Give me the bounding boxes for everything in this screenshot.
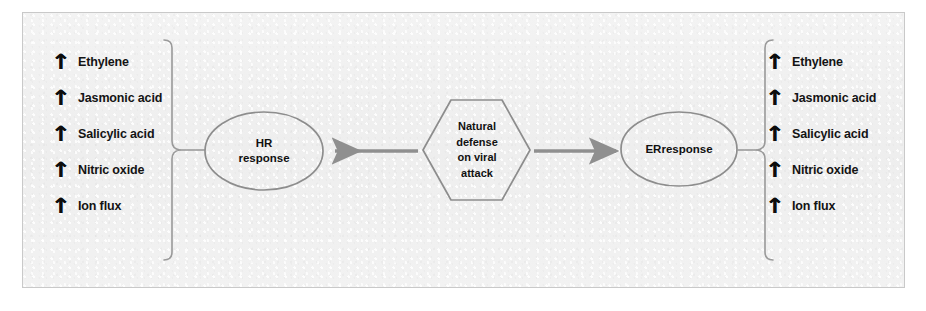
list-item-label: Nitric oxide [786,163,858,177]
up-arrow-icon: ↑ [51,124,74,145]
up-arrow-icon: ↑ [765,124,788,145]
up-arrow-icon: ↑ [765,88,788,109]
up-arrow-icon: ↑ [765,52,788,73]
up-arrow-icon: ↑ [51,52,74,73]
list-item-label: Jasmonic acid [72,91,162,105]
list-item: ↑ Ethylene [52,44,172,80]
left-response-list: ↑ Ethylene ↑ Jasmonic acid ↑ Salicylic a… [52,44,172,224]
up-arrow-icon: ↑ [765,160,788,181]
up-arrow-icon: ↑ [51,88,74,109]
natural-defense-line-3: on viral [457,150,496,166]
natural-defense-line-2: defense [456,135,498,151]
natural-defense-label: Natural defense on viral attack [424,100,530,200]
list-item-label: Ethylene [786,55,843,69]
up-arrow-icon: ↑ [51,196,74,217]
list-item-label: Salicylic acid [786,127,868,141]
list-item-label: Ion flux [786,199,835,213]
up-arrow-icon: ↑ [765,196,788,217]
list-item: ↑ Jasmonic acid [766,80,896,116]
hr-response-line-1: HR [256,136,273,151]
up-arrow-icon: ↑ [51,160,74,181]
list-item: ↑ Salicylic acid [766,116,896,152]
list-item: ↑ Ion flux [766,188,896,224]
hr-response-label: HR response [205,112,323,190]
natural-defense-line-1: Natural [458,119,496,135]
list-item-label: Salicylic acid [72,127,154,141]
list-item: ↑ Salicylic acid [52,116,172,152]
right-response-list: ↑ Ethylene ↑ Jasmonic acid ↑ Salicylic a… [766,44,896,224]
list-item: ↑ Jasmonic acid [52,80,172,116]
list-item: ↑ Ion flux [52,188,172,224]
hr-response-line-2: response [238,151,289,166]
list-item-label: Ethylene [72,55,129,69]
list-item-label: Nitric oxide [72,163,144,177]
list-item-label: Jasmonic acid [786,91,876,105]
er-response-line-1: ERresponse [645,142,712,157]
natural-defense-line-4: attack [461,166,493,182]
list-item: ↑ Nitric oxide [52,152,172,188]
list-item-label: Ion flux [72,199,121,213]
diagram-canvas: ↑ Ethylene ↑ Jasmonic acid ↑ Salicylic a… [0,0,926,311]
er-response-label: ERresponse [621,112,737,186]
list-item: ↑ Nitric oxide [766,152,896,188]
list-item: ↑ Ethylene [766,44,896,80]
